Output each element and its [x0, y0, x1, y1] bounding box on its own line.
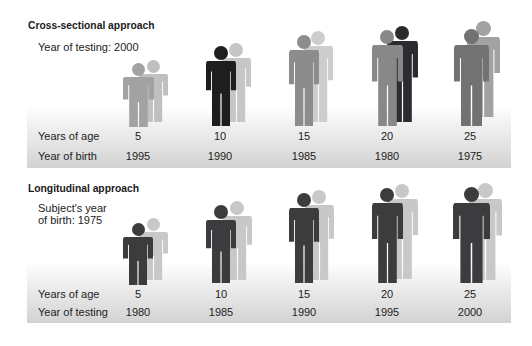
- testing-year-value: 1980: [126, 306, 150, 319]
- person-icon-front: [372, 188, 403, 283]
- body-shape: [453, 203, 490, 283]
- testing-year-value: 2000: [458, 306, 482, 319]
- age-value: 5: [135, 288, 141, 301]
- birth-year-value: 1975: [458, 150, 482, 163]
- age-value: 25: [464, 130, 476, 143]
- section-title-cross-sectional: Cross-sectional approach: [28, 19, 154, 32]
- body-shape: [289, 208, 319, 283]
- body-shape: [372, 203, 403, 283]
- birth-year-value: 1985: [292, 150, 316, 163]
- age-value: 15: [298, 130, 310, 143]
- head-shape: [214, 205, 228, 219]
- head-shape: [297, 193, 311, 207]
- testing-year-value: 1985: [209, 306, 233, 319]
- birth-year-value: 1995: [126, 150, 150, 163]
- age-value: 10: [214, 130, 226, 143]
- birth-year-value: 1980: [375, 150, 399, 163]
- year-of-testing-note: Year of testing: 2000: [38, 41, 139, 54]
- testing-year-value: 1990: [292, 306, 316, 319]
- birth-year-value: 1990: [208, 150, 232, 163]
- age-value: 20: [381, 288, 393, 301]
- head-shape: [132, 223, 145, 236]
- row-label-years-of-age: Years of age: [38, 130, 99, 143]
- head-shape: [464, 187, 479, 202]
- head-shape: [380, 188, 394, 202]
- age-value: 20: [381, 130, 393, 143]
- age-value: 15: [298, 288, 310, 301]
- person-icon-front: [123, 223, 153, 285]
- body-shape: [123, 237, 153, 285]
- testing-year-value: 1995: [375, 306, 399, 319]
- research-design-diagram: Cross-sectional approach Year of testing…: [0, 0, 532, 346]
- row-label-years-of-age: Years of age: [38, 288, 99, 301]
- body-shape: [206, 220, 236, 283]
- section-title-longitudinal: Longitudinal approach: [28, 182, 139, 195]
- age-value: 25: [464, 288, 476, 301]
- row-label-year-of-birth: Year of birth: [38, 150, 97, 163]
- row-label-year-of-testing: Year of testing: [38, 306, 108, 319]
- subject-birth-year-note-line2: of birth: 1975: [38, 214, 102, 227]
- person-icon-front: [206, 205, 236, 283]
- age-value: 10: [215, 288, 227, 301]
- age-value: 5: [135, 130, 141, 143]
- person-icon-front: [289, 193, 319, 283]
- person-icon-front: [453, 187, 490, 283]
